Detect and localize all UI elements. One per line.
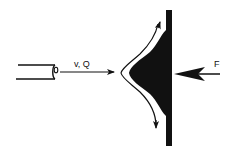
force-label: F: [214, 59, 220, 69]
nozzle-pipe: [16, 65, 58, 79]
jet-label: v, Q: [74, 59, 90, 69]
force-arrow: [174, 67, 220, 81]
diagram-canvas: v, Q F: [0, 0, 233, 156]
plate: [129, 10, 172, 146]
jet-plate-diagram: v, Q F: [0, 0, 233, 156]
